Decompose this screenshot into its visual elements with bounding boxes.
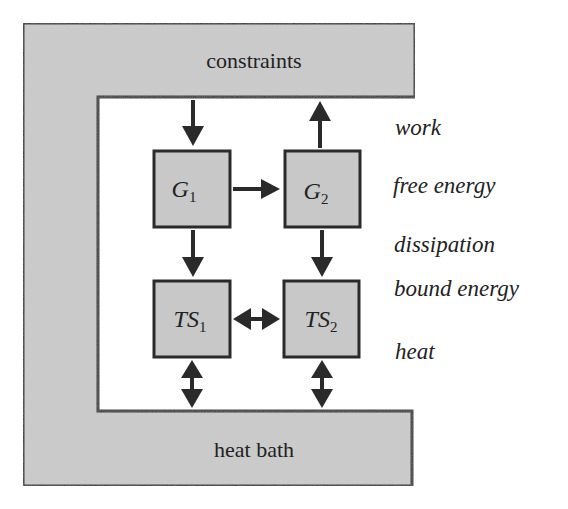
label-heat: heat	[395, 339, 435, 364]
constraints-heatbath-frame	[23, 23, 415, 486]
g1-symbol: G	[172, 176, 189, 202]
constraints-label: constraints	[206, 48, 301, 73]
ts1-subscript: 1	[199, 319, 207, 335]
node-ts1: TS1	[154, 281, 230, 357]
arrow-up-icon	[309, 101, 331, 148]
arrow-right-icon	[233, 179, 280, 199]
ts1-symbol: TS	[174, 306, 199, 332]
arrow-down-icon	[182, 230, 204, 277]
double-arrow-vertical-icon	[311, 360, 333, 408]
energy-flow-diagram: constraints heat bath G1 G2 TS1 TS2	[0, 0, 568, 509]
label-bound-energy: bound energy	[394, 276, 520, 301]
label-work: work	[395, 115, 442, 140]
node-g2: G2	[285, 151, 360, 227]
node-g1: G1	[154, 151, 230, 227]
g2-subscript: 2	[321, 191, 329, 207]
ts2-subscript: 2	[330, 319, 338, 335]
double-arrow-vertical-icon	[181, 360, 203, 408]
g2-symbol: G	[304, 178, 321, 204]
double-arrow-horizontal-icon	[233, 308, 280, 330]
g1-subscript: 1	[189, 189, 197, 205]
arrow-down-icon	[311, 230, 333, 277]
heat-bath-label: heat bath	[214, 437, 294, 462]
label-free-energy: free energy	[393, 173, 496, 198]
node-ts2: TS2	[284, 281, 359, 357]
arrow-down-icon	[182, 100, 204, 146]
label-dissipation: dissipation	[394, 232, 495, 257]
ts2-symbol: TS	[305, 306, 330, 332]
